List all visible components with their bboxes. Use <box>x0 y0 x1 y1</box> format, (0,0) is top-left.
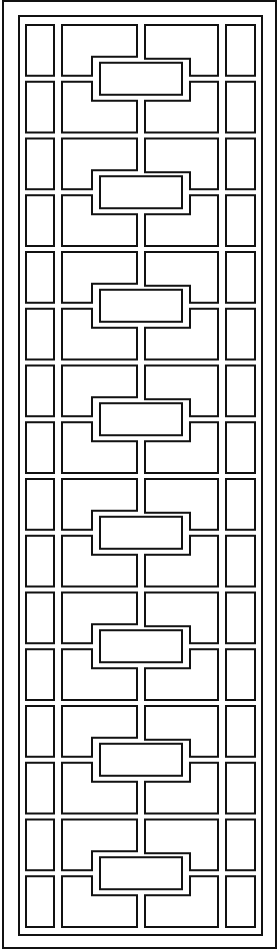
left-small-rect <box>26 536 54 587</box>
right-small-rect <box>226 309 255 360</box>
left-small-rect <box>26 366 54 417</box>
right-small-rect <box>226 876 255 927</box>
left-small-rect <box>26 876 54 927</box>
left-small-rect <box>26 820 54 871</box>
right-small-rect <box>226 820 255 871</box>
right-small-rect <box>226 763 255 814</box>
right-small-rect <box>226 82 255 133</box>
center-rect <box>100 744 182 776</box>
right-small-rect <box>226 706 255 757</box>
left-small-rect <box>26 422 54 473</box>
center-rect <box>100 403 182 435</box>
right-small-rect <box>226 593 255 644</box>
left-small-rect <box>26 252 54 303</box>
center-rect <box>100 857 182 889</box>
center-rect <box>100 63 182 95</box>
right-small-rect <box>226 252 255 303</box>
left-small-rect <box>26 706 54 757</box>
left-small-rect <box>26 649 54 700</box>
left-small-rect <box>26 309 54 360</box>
right-small-rect <box>226 195 255 246</box>
right-small-rect <box>226 479 255 530</box>
right-small-rect <box>226 139 255 190</box>
right-small-rect <box>226 649 255 700</box>
left-small-rect <box>26 195 54 246</box>
lattice-diagram <box>0 0 279 951</box>
left-small-rect <box>26 763 54 814</box>
center-rect <box>100 176 182 208</box>
pattern-units <box>26 25 255 927</box>
left-small-rect <box>26 593 54 644</box>
left-small-rect <box>26 479 54 530</box>
right-small-rect <box>226 536 255 587</box>
right-small-rect <box>226 366 255 417</box>
outer-frame <box>3 1 276 948</box>
left-small-rect <box>26 82 54 133</box>
left-small-rect <box>26 139 54 190</box>
left-small-rect <box>26 25 54 76</box>
right-small-rect <box>226 25 255 76</box>
center-rect <box>100 517 182 549</box>
center-rect <box>100 630 182 662</box>
right-small-rect <box>226 422 255 473</box>
center-rect <box>100 290 182 322</box>
